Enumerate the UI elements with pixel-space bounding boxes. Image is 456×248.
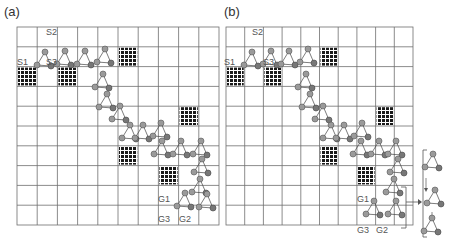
detail-inset (401, 150, 444, 237)
label-g2-a: G2 (179, 214, 191, 224)
diagram-canvas: S2 S1 S3 G1 G3 G2 (0, 0, 456, 248)
label-g1-a: G1 (158, 194, 170, 204)
label-g1-b: G1 (357, 194, 369, 204)
label-s1-b: S1 (224, 57, 235, 67)
label-g3-b: G3 (357, 225, 369, 235)
arrow-down-icon (424, 188, 428, 192)
label-g2-b: G2 (376, 225, 388, 235)
label-s3-a: S3 (46, 57, 57, 67)
label-g3-a: G3 (158, 214, 170, 224)
arrow-right-icon (418, 199, 422, 205)
obstacles-b (227, 48, 393, 185)
label-s1-a: S1 (17, 57, 28, 67)
panel-b-grid (226, 27, 413, 225)
obstacles-a (18, 48, 198, 185)
label-s2-a: S2 (46, 27, 57, 37)
label-s2-b: S2 (252, 27, 263, 37)
label-s3-b: S3 (263, 57, 274, 67)
